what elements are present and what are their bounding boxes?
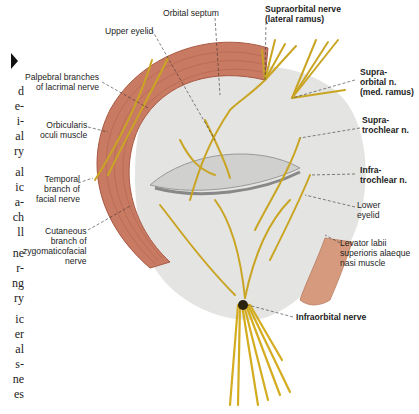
label-infraorbital-nerve: Infraorbital nerve	[296, 312, 366, 322]
label-supraorbital-lateral: Supraorbital nerve (lateral ramus)	[265, 4, 341, 24]
label-levator-labii: Levator labii superioris alaeque nasi mu…	[340, 238, 410, 268]
label-upper-eyelid: Upper eyelid	[105, 26, 153, 36]
label-supraorbital-medial: Supra- orbital n. (med. ramus)	[360, 67, 414, 97]
label-infratrochlear: Infra- trochlear n.	[360, 165, 407, 185]
label-lower-eyelid: Lower eyelid	[357, 200, 380, 220]
label-cutaneous-branch: Cutaneous branch of zygomaticofacial ner…	[23, 226, 87, 266]
label-supratrochlear: Supra- trochlear n.	[362, 115, 409, 135]
label-orbicularis-oculi: Orbicularis oculi muscle	[40, 120, 87, 140]
label-orbital-septum: Orbital septum	[163, 8, 219, 18]
label-temporal-branch: Temporal branch of facial nerve	[36, 174, 80, 204]
infraorbital-nerve-fan	[230, 305, 290, 405]
label-palpebral-branches: Palpebral branches of lacrimal nerve	[25, 72, 99, 92]
